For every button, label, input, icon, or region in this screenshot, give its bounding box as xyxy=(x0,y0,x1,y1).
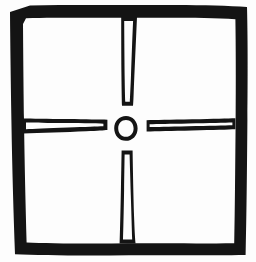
drawing-canvas: Hand-drawn square frame with inward-poin… xyxy=(0,0,256,262)
cross-in-square-figure xyxy=(0,0,256,262)
